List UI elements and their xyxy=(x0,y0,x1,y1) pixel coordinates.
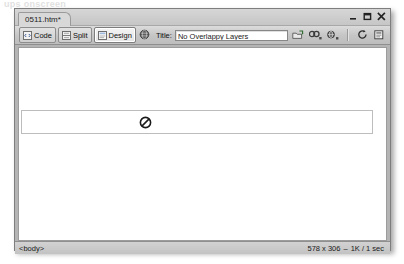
document-tab[interactable]: 0511.htm* xyxy=(18,12,71,26)
code-view-icon xyxy=(23,31,32,40)
design-view-icon xyxy=(98,31,107,40)
document-toolbar: Code Split xyxy=(15,26,390,45)
preview-in-browser-icon xyxy=(309,26,322,44)
design-view-canvas[interactable] xyxy=(18,47,387,241)
no-entry-icon xyxy=(139,116,152,129)
status-bar-right: 578 x 306 – 1K / 1 sec xyxy=(308,242,384,254)
split-view-icon xyxy=(62,31,71,40)
status-separator: – xyxy=(343,244,347,253)
window-size-indicator[interactable]: 578 x 306 xyxy=(308,244,341,253)
document-size-indicator: 1K / 1 sec xyxy=(351,244,384,253)
document-window: 0511.htm* xyxy=(14,8,391,251)
validate-markup-icon xyxy=(374,26,385,44)
title-input[interactable]: No Overlappy Layers xyxy=(175,30,288,41)
tag-selector[interactable]: <body> xyxy=(19,244,44,253)
toolbar-divider xyxy=(347,29,348,41)
refresh-design-view-button[interactable] xyxy=(356,29,369,42)
live-view-button[interactable] xyxy=(138,29,151,42)
visual-aids-icon xyxy=(326,26,339,44)
window-controls xyxy=(349,11,386,22)
file-management-button[interactable] xyxy=(292,29,305,42)
design-view-button[interactable]: Design xyxy=(94,27,136,43)
title-field-label: Title: xyxy=(156,31,172,40)
restore-button[interactable] xyxy=(363,11,372,22)
minimize-button[interactable] xyxy=(349,11,358,22)
code-view-button[interactable]: Code xyxy=(19,27,56,43)
check-browser-compatibility-button[interactable] xyxy=(373,29,386,42)
design-view-label: Design xyxy=(109,31,132,40)
split-view-label: Split xyxy=(73,31,88,40)
design-view-canvas-wrapper xyxy=(15,45,390,241)
visual-aids-button[interactable] xyxy=(326,29,339,42)
window-titlebar: 0511.htm* xyxy=(15,9,390,26)
split-view-button[interactable]: Split xyxy=(58,27,92,43)
code-view-label: Code xyxy=(34,31,52,40)
status-bar: <body> 578 x 306 – 1K / 1 sec xyxy=(15,241,390,254)
close-button[interactable] xyxy=(377,11,386,22)
preview-in-browser-button[interactable] xyxy=(309,29,322,42)
toolbar-right-icons xyxy=(292,29,386,42)
refresh-design-view-icon xyxy=(357,26,368,44)
globe-icon xyxy=(139,26,150,44)
file-management-icon xyxy=(292,26,304,44)
ap-div-layer[interactable] xyxy=(21,110,373,134)
